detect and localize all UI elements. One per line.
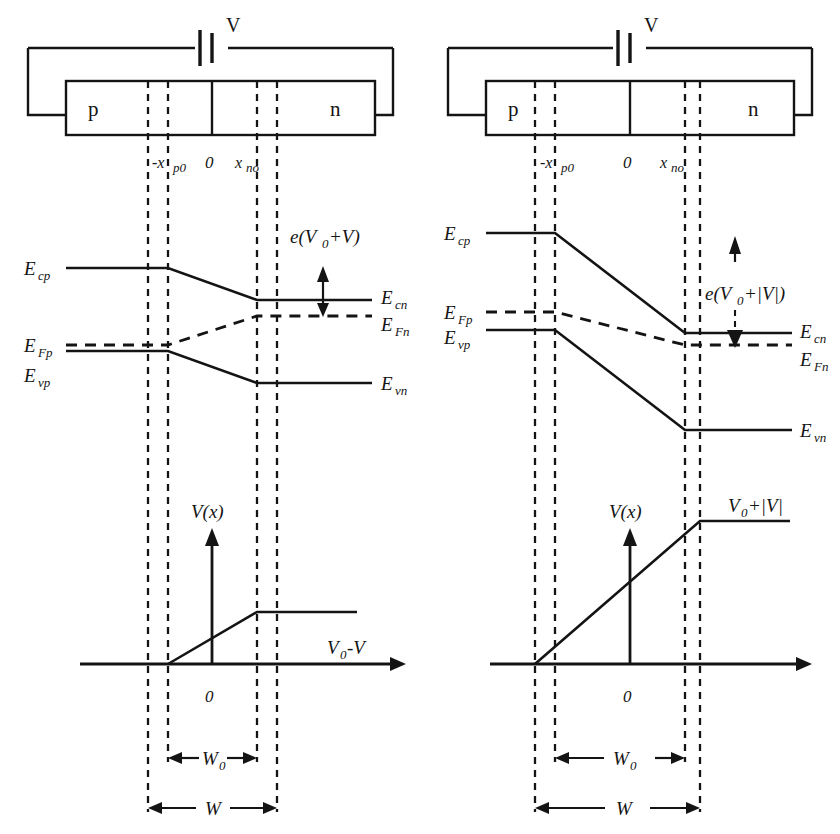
Ecp-subscript: cp: [38, 268, 51, 283]
circuit-wire-left-leg: [448, 48, 486, 115]
Evp-subscript: vp: [38, 375, 51, 390]
circuit-wire-right-leg: [794, 48, 812, 115]
depletion-guides-reverse: [535, 81, 700, 812]
Ecp-label: E: [443, 223, 456, 244]
x-n0-label: x: [659, 154, 667, 171]
Evn-label: E: [380, 373, 393, 394]
device-block-forward: p n: [66, 81, 375, 135]
potential-y-axis-arrowhead: [205, 528, 219, 546]
device-block-reverse: p n: [486, 81, 794, 135]
w0-subscript: 0: [219, 758, 226, 773]
Ecp-subscript: cp: [458, 233, 471, 248]
Ecp-label: E: [23, 258, 36, 279]
n-region-label: n: [748, 97, 759, 121]
barrier-arrow-head-up: [317, 266, 329, 282]
EFn-label: E: [380, 314, 393, 335]
w0-subscript: 0: [630, 758, 637, 773]
potential-x-axis-arrowhead: [796, 657, 812, 671]
figure-root: V p n -x p0 0 x no: [0, 0, 840, 834]
panel-forward-bias: V p n -x p0 0 x no: [23, 14, 409, 819]
barrier-energy-subscript: 0: [737, 293, 744, 308]
potential-axis-label: V(x): [609, 501, 642, 523]
p-region-label: p: [88, 97, 99, 121]
x-n0-subscript: no: [246, 160, 260, 175]
w-label: W: [616, 798, 634, 819]
width-w0-reverse: W 0: [555, 748, 685, 773]
band-diagram-forward: e(V 0 +V) E cp E Fp E vp E cn E Fn E vn: [23, 226, 409, 398]
EFn-label: E: [799, 349, 812, 370]
band-diagram-reverse: e(V 0 +|V|) E cp E Fp E vp E cn E Fn E v…: [443, 223, 828, 445]
EFn-subscript: Fn: [813, 359, 828, 374]
circuit-wire-left-leg: [28, 48, 66, 115]
fermi-level: [66, 316, 372, 345]
potential-plateau-tail: +|V|: [748, 495, 783, 516]
potential-plateau-subscript: 0: [741, 505, 748, 520]
x-p0-subscript: p0: [560, 160, 575, 175]
pn-junction-figure: V p n -x p0 0 x no: [0, 0, 840, 834]
fermi-level: [486, 312, 792, 345]
x-n0-subscript: no: [671, 160, 685, 175]
Ecn-subscript: cn: [814, 331, 826, 346]
Evn-subscript: vn: [395, 383, 407, 398]
EFp-subscript: Fp: [457, 312, 473, 327]
w-label: W: [205, 798, 223, 819]
Evp-label: E: [23, 365, 36, 386]
barrier-arrow-head-up: [729, 236, 741, 254]
w0-arrowhead-right: [243, 752, 257, 764]
barrier-energy-subscript: 0: [322, 236, 329, 251]
EFp-label: E: [23, 335, 36, 356]
width-w-forward: W: [148, 798, 277, 819]
x-p0-subscript: p0: [172, 160, 187, 175]
valence-band-edge: [66, 351, 372, 383]
Evp-label: E: [443, 327, 456, 348]
Evp-subscript: vp: [458, 337, 471, 352]
position-labels-reverse: -x p0 0 x no: [540, 153, 685, 175]
origin-label-top: 0: [205, 153, 214, 172]
potential-plot-reverse: V(x) 0 V 0 +|V|: [490, 495, 812, 706]
barrier-energy-tail: +|V|): [744, 283, 785, 305]
w0-arrowhead-right: [671, 752, 685, 764]
w-arrowhead-left: [148, 802, 162, 814]
x-n0-label: x: [234, 154, 242, 171]
barrier-energy-tail: +V): [329, 226, 360, 248]
w-arrowhead-right: [263, 802, 277, 814]
circuit-wire-right-leg: [375, 48, 393, 115]
origin-label-top: 0: [623, 153, 632, 172]
w0-arrowhead-left: [168, 752, 182, 764]
potential-x-axis-arrowhead: [390, 657, 406, 671]
source-voltage-label: V: [644, 14, 659, 36]
potential-axis-label: V(x): [191, 501, 224, 523]
w0-arrowhead-left: [555, 752, 569, 764]
x-p0-label: -x: [540, 154, 552, 171]
potential-plateau-label: V: [728, 495, 742, 516]
w-arrowhead-left: [535, 802, 549, 814]
panel-reverse-bias: V p n -x p0 0 x no: [443, 14, 828, 819]
width-w0-forward: W 0: [168, 748, 257, 773]
Ecn-subscript: cn: [395, 297, 407, 312]
barrier-energy-label: e(V: [290, 226, 319, 248]
potential-profile-curve: [535, 521, 790, 664]
EFn-subscript: Fn: [394, 324, 409, 339]
valence-band-edge: [486, 330, 792, 430]
EFp-label: E: [443, 302, 456, 323]
source-voltage-label: V: [226, 14, 241, 36]
potential-plateau-label: V: [327, 637, 341, 658]
potential-y-axis-arrowhead: [623, 528, 637, 546]
n-region-label: n: [330, 97, 341, 121]
Evn-subscript: vn: [814, 430, 826, 445]
potential-origin-label: 0: [205, 687, 214, 706]
potential-origin-label: 0: [623, 687, 632, 706]
w0-label: W: [202, 748, 220, 769]
Ecn-label: E: [380, 287, 393, 308]
w0-label: W: [613, 748, 631, 769]
potential-plot-forward: V(x) 0 V 0 -V: [80, 501, 406, 706]
x-p0-label: -x: [152, 154, 164, 171]
potential-plateau-subscript: 0: [340, 647, 347, 662]
device-outline: [66, 81, 375, 135]
w-arrowhead-right: [686, 802, 700, 814]
Evn-label: E: [799, 420, 812, 441]
potential-plateau-tail: -V: [347, 637, 367, 658]
Ecn-label: E: [799, 321, 812, 342]
conduction-band-edge: [66, 268, 372, 300]
barrier-energy-label: e(V: [705, 283, 734, 305]
